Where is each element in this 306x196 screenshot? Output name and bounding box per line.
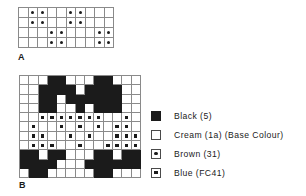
chart-b-cell <box>132 104 141 113</box>
chart-b-cell <box>113 169 122 178</box>
chart-b-cell <box>85 160 94 169</box>
chart-b-cell <box>57 132 66 141</box>
chart-b-cell <box>104 150 113 159</box>
legend-item: Blue (FC41) <box>151 163 303 182</box>
chart-b-cell <box>85 169 94 178</box>
chart-b-cell <box>48 122 57 131</box>
chart-b-cell <box>94 169 103 178</box>
chart-b-cell <box>122 95 131 104</box>
chart-a-cell <box>86 18 96 28</box>
chart-b-cell <box>85 85 94 94</box>
chart-b-cell <box>132 150 141 159</box>
chart-b-cell <box>122 85 131 94</box>
chart-b-cell <box>85 132 94 141</box>
chart-a-cell <box>57 18 67 28</box>
chart-b-cell <box>85 122 94 131</box>
chart-a-cell <box>86 38 96 48</box>
chart-b-cell <box>20 104 29 113</box>
chart-a-cell <box>67 8 77 18</box>
chart-b-cell <box>48 160 57 169</box>
chart-b-cell <box>76 113 85 122</box>
chart-b-cell <box>94 104 103 113</box>
chart-b-cell <box>66 113 75 122</box>
chart-b-cell <box>94 141 103 150</box>
chart-b-cell <box>39 150 48 159</box>
chart-a-cell <box>76 28 86 38</box>
chart-b-grid <box>19 75 141 178</box>
chart-b-cell <box>122 150 131 159</box>
chart-a-cell <box>19 18 29 28</box>
chart-a-cell <box>67 28 77 38</box>
chart-b-cell <box>39 169 48 178</box>
chart-b-cell <box>66 95 75 104</box>
chart-b-cell <box>29 85 38 94</box>
chart-a-cell <box>48 18 58 28</box>
chart-b-cell <box>122 141 131 150</box>
chart-b-cell <box>29 113 38 122</box>
chart-b-cell <box>20 85 29 94</box>
chart-b-cell <box>39 104 48 113</box>
chart-b-cell <box>20 95 29 104</box>
chart-a-cell <box>48 8 58 18</box>
chart-b-cell <box>66 132 75 141</box>
chart-b-cell <box>132 95 141 104</box>
chart-b-cell <box>122 113 131 122</box>
chart-b-cell <box>39 132 48 141</box>
chart-a-cell <box>29 28 39 38</box>
chart-b-cell <box>104 132 113 141</box>
chart-b-cell <box>66 141 75 150</box>
chart-b-cell <box>76 95 85 104</box>
chart-a-cell <box>86 8 96 18</box>
chart-b-cell <box>94 132 103 141</box>
chart-b-cell <box>29 169 38 178</box>
chart-b-cell <box>132 141 141 150</box>
chart-a-cell <box>67 18 77 28</box>
chart-b-cell <box>85 76 94 85</box>
chart-b-cell <box>39 141 48 150</box>
chart-b-cell <box>29 76 38 85</box>
chart-b-cell <box>66 169 75 178</box>
chart-b-cell <box>20 160 29 169</box>
chart-b-cell <box>39 122 48 131</box>
chart-b-cell <box>29 122 38 131</box>
chart-b-cell <box>76 160 85 169</box>
chart-a-label: A <box>18 53 25 62</box>
chart-a-cell <box>57 38 67 48</box>
chart-b-cell <box>20 132 29 141</box>
legend-item-label: Cream (1a) (Base Colour) <box>174 130 284 140</box>
chart-b-cell <box>29 160 38 169</box>
legend-item: Brown (31) <box>151 144 303 163</box>
chart-b-cell <box>132 113 141 122</box>
chart-b-cell <box>57 150 66 159</box>
chart-b-cell <box>132 160 141 169</box>
chart-b-cell <box>104 169 113 178</box>
chart-b-cell <box>122 132 131 141</box>
legend-item-label: Black (5) <box>174 111 212 121</box>
chart-b-cell <box>113 95 122 104</box>
chart-b-cell <box>76 141 85 150</box>
chart-a-cell <box>38 38 48 48</box>
chart-b-cell <box>57 113 66 122</box>
chart-b-cell <box>104 160 113 169</box>
chart-b-cell <box>76 85 85 94</box>
chart-b-cell <box>66 122 75 131</box>
chart-b-cell <box>48 169 57 178</box>
chart-b-cell <box>76 150 85 159</box>
legend-swatch-black-icon <box>151 111 161 121</box>
chart-b-cell <box>113 113 122 122</box>
chart-b-cell <box>104 113 113 122</box>
chart-b-cell <box>113 150 122 159</box>
chart-b-cell <box>94 160 103 169</box>
legend-swatch-brown-icon <box>151 149 161 159</box>
chart-a-grid <box>18 7 114 48</box>
chart-a-cell <box>67 38 77 48</box>
chart-b-cell <box>29 150 38 159</box>
chart-b-cell <box>57 85 66 94</box>
legend-swatch-blue-icon <box>151 168 161 178</box>
chart-b-cell <box>66 85 75 94</box>
legend: Black (5)Cream (1a) (Base Colour)Brown (… <box>151 106 303 182</box>
chart-b-cell <box>113 122 122 131</box>
chart-b-cell <box>104 76 113 85</box>
chart-b-cell <box>20 141 29 150</box>
chart-b-cell <box>122 104 131 113</box>
